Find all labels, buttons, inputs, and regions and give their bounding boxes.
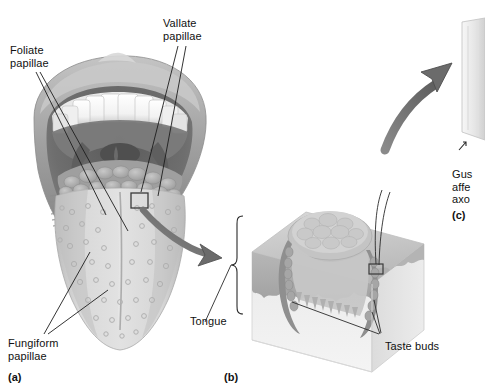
label-fungiform-papillae: Fungiform papillae <box>8 337 58 362</box>
tongue-leader-line <box>205 265 231 322</box>
panel-c-taste-bud-illustration <box>459 18 485 150</box>
tongue-bracket <box>231 216 243 314</box>
illustration-artwork <box>0 0 485 389</box>
label-taste-buds: Taste buds <box>385 340 439 353</box>
panel-a-open-mouth-illustration <box>34 53 206 350</box>
panel-label-c: (c) <box>452 209 465 221</box>
arrow-b-to-c <box>385 63 452 150</box>
label-foliate-papillae: Foliate papillae <box>10 44 49 69</box>
label-vallate-papillae: Vallate papillae <box>163 17 202 42</box>
label-tongue: Tongue <box>190 315 227 328</box>
panel-label-a: (a) <box>8 371 21 383</box>
tongue-taste-bud-figure: Foliate papillae Vallate papillae Fungif… <box>0 0 485 389</box>
panel-label-b: (b) <box>224 371 238 383</box>
label-gustatory-afferent-axons: Gus affe axo <box>452 168 472 206</box>
